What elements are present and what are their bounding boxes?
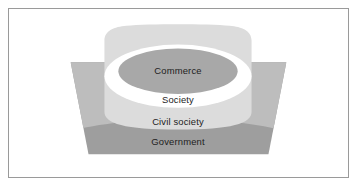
commerce-label: Commerce <box>154 65 201 76</box>
figure-frame: Commerce Society Civil society Governmen… <box>8 8 349 178</box>
civil-society-label: Civil society <box>152 116 204 127</box>
nested-layers-diagram: Commerce Society Civil society Governmen… <box>9 9 348 177</box>
figure-root: Commerce Society Civil society Governmen… <box>0 0 357 191</box>
society-label: Society <box>162 94 194 105</box>
government-label: Government <box>151 136 205 147</box>
